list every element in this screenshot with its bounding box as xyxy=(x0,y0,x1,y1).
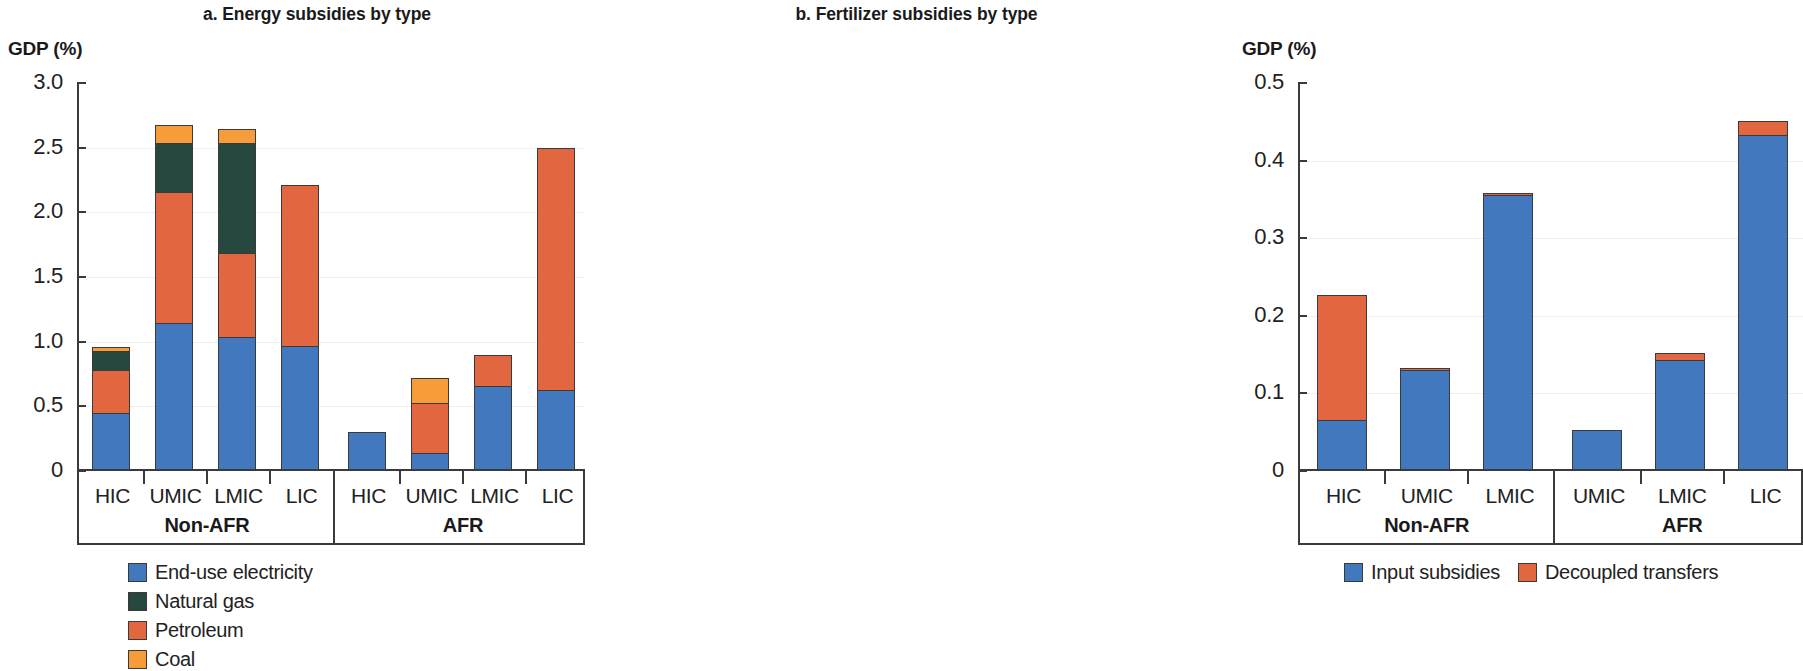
group-label-non-afr: Non-AFR xyxy=(164,514,249,537)
legend-label: Decoupled transfers xyxy=(1545,561,1718,584)
bar-a-4 xyxy=(348,432,386,469)
y-tick-label: 0.2 xyxy=(1254,302,1284,328)
category-label-umic-1: UMIC xyxy=(149,484,201,508)
panel-a-category-axis: HICUMICLMICLICNon-AFRHICUMICLMICLICAFR xyxy=(77,471,585,545)
category-label-lic-5: LIC xyxy=(1750,484,1781,508)
y-tick-label: 0.3 xyxy=(1254,224,1284,250)
category-label-lmic-2: LMIC xyxy=(214,484,263,508)
category-tick xyxy=(1723,471,1725,484)
group-label-afr: AFR xyxy=(443,514,484,537)
bar-segment xyxy=(1317,295,1367,421)
y-tick-label: 2.5 xyxy=(33,134,63,160)
panel-b-legend-item-decoupled-transfers: Decoupled transfers xyxy=(1518,561,1718,584)
bar-segment xyxy=(92,351,130,372)
bar-segment xyxy=(155,125,193,143)
y-tick-label: 0 xyxy=(1272,457,1284,483)
bar-a-1 xyxy=(155,125,193,469)
y-tick-label: 1.0 xyxy=(33,328,63,354)
bar-segment xyxy=(1738,135,1788,469)
group-label-afr: AFR xyxy=(1662,514,1703,537)
bar-segment xyxy=(1400,370,1450,469)
legend-label: Natural gas xyxy=(155,590,254,613)
panel-b-y-axis-label: GDP (%) xyxy=(1242,38,1316,60)
bar-segment xyxy=(92,370,130,414)
legend-swatch-petroleum-icon xyxy=(128,621,147,640)
y-tick-label: 0.5 xyxy=(33,392,63,418)
bar-segment xyxy=(474,386,512,469)
bar-segment xyxy=(1317,420,1367,469)
y-tick-label: 2.0 xyxy=(33,198,63,224)
panel-b: b. Fertilizer subsidies by type GDP (%) … xyxy=(610,0,1213,623)
category-label-lic-3: LIC xyxy=(286,484,317,508)
legend-swatch-coal-icon xyxy=(128,650,147,669)
y-tick-label: 0 xyxy=(51,457,63,483)
panel-b-plot-area: 00.10.20.30.40.5 xyxy=(1298,83,1803,471)
bar-segment xyxy=(218,337,256,469)
bar-a-6 xyxy=(474,355,512,469)
group-divider xyxy=(333,471,335,543)
category-label-hic-0: HIC xyxy=(1326,484,1361,508)
category-label-lic-7: LIC xyxy=(542,484,573,508)
bar-segment xyxy=(281,346,319,469)
legend-label: End-use electricity xyxy=(155,561,313,584)
y-tick-label: 0.4 xyxy=(1254,147,1284,173)
bar-b-5 xyxy=(1738,121,1788,469)
bar-segment xyxy=(1738,121,1788,137)
legend-label: Petroleum xyxy=(155,619,243,642)
bar-segment xyxy=(281,185,319,347)
category-label-umic-3: UMIC xyxy=(1573,484,1625,508)
bar-segment xyxy=(474,355,512,387)
panel-a-legend-item-natural-gas: Natural gas xyxy=(128,590,348,613)
bar-segment xyxy=(218,143,256,254)
category-tick xyxy=(1467,471,1469,484)
panel-b-category-axis: HICUMICLMICNon-AFRUMICLMICLICAFR xyxy=(1298,471,1803,545)
panel-b-bars xyxy=(1300,83,1803,469)
panel-a-y-axis-label: GDP (%) xyxy=(8,38,82,60)
category-label-umic-1: UMIC xyxy=(1401,484,1453,508)
legend-swatch-natural-gas-icon xyxy=(128,592,147,611)
bar-b-0 xyxy=(1317,295,1367,469)
group-divider xyxy=(1553,471,1555,543)
bar-b-3 xyxy=(1572,430,1622,469)
bar-a-5 xyxy=(411,378,449,469)
panel-a-title: a. Energy subsidies by type xyxy=(0,4,610,25)
category-label-umic-5: UMIC xyxy=(405,484,457,508)
category-tick xyxy=(525,471,527,484)
bar-segment xyxy=(1572,430,1622,469)
bar-a-7 xyxy=(537,148,575,469)
bar-a-2 xyxy=(218,129,256,469)
category-label-hic-0: HIC xyxy=(95,484,130,508)
bar-segment xyxy=(348,432,386,469)
panel-a: a. Energy subsidies by type GDP (%) 00.5… xyxy=(0,0,610,623)
bar-segment xyxy=(1655,360,1705,469)
bar-b-1 xyxy=(1400,368,1450,469)
category-label-lmic-2: LMIC xyxy=(1486,484,1535,508)
panel-a-legend-item-coal: Coal xyxy=(128,648,348,671)
bar-segment xyxy=(1483,195,1533,469)
bar-segment xyxy=(155,192,193,324)
bar-a-3 xyxy=(281,185,319,469)
category-label-lmic-4: LMIC xyxy=(1658,484,1707,508)
category-tick xyxy=(206,471,208,484)
bar-a-0 xyxy=(92,347,130,469)
bar-segment xyxy=(411,378,449,404)
y-tick-label: 0.5 xyxy=(1254,69,1284,95)
category-tick xyxy=(1640,471,1642,484)
category-tick xyxy=(399,471,401,484)
bar-b-2 xyxy=(1483,193,1533,469)
legend-label: Input subsidies xyxy=(1371,561,1500,584)
category-label-lmic-6: LMIC xyxy=(470,484,519,508)
y-tick-label: 3.0 xyxy=(33,69,63,95)
category-tick xyxy=(1384,471,1386,484)
category-tick xyxy=(143,471,145,484)
bar-b-4 xyxy=(1655,353,1705,469)
panel-b-legend: Input subsidiesDecoupled transfers xyxy=(1344,561,1784,584)
group-label-non-afr: Non-AFR xyxy=(1384,514,1469,537)
legend-swatch-input-subsidies-icon xyxy=(1344,563,1363,582)
panel-a-legend-item-petroleum: Petroleum xyxy=(128,619,348,642)
bar-segment xyxy=(411,453,449,469)
bar-segment xyxy=(155,323,193,469)
bar-segment xyxy=(537,390,575,469)
bar-segment xyxy=(218,129,256,143)
